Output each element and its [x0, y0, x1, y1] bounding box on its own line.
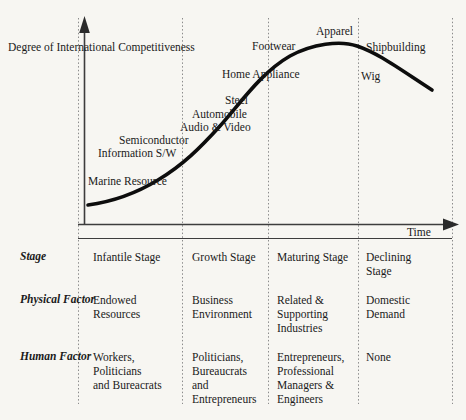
cell-stage-growth: Growth Stage: [192, 250, 256, 264]
curve-label-semiconductor: Semiconductor: [119, 134, 189, 148]
curve-label-information-sw: Information S/W: [98, 147, 176, 161]
curve-label-home-appliance: Home Appliance: [222, 68, 300, 82]
cell-physical-maturing: Related & Supporting Industries: [277, 293, 328, 335]
cell-physical-growth: Business Environment: [192, 293, 252, 321]
x-axis-title: Time: [407, 226, 431, 240]
cell-human-infantile: Workers, Politicians and Bureacrats: [93, 350, 162, 392]
curve-label-shipbuilding: Shipbuilding: [366, 41, 425, 55]
row-label-physical-factor: Physical Factor: [20, 293, 95, 307]
cell-stage-declining: Declining Stage: [366, 250, 411, 278]
cell-human-declining: None: [366, 350, 391, 364]
curve-label-wig: Wig: [361, 70, 380, 84]
x-axis: [78, 219, 459, 231]
y-axis-title: Degree of International Competitiveness: [8, 41, 195, 54]
curve-label-audio-video: Audio & Video: [180, 121, 251, 135]
cell-stage-infantile: Infantile Stage: [93, 250, 160, 264]
curve-label-footwear: Footwear: [252, 40, 295, 54]
cell-human-growth: Politicians, Bureaucrats and Entrepreneu…: [192, 350, 257, 406]
cell-human-maturing: Entrepreneurs, Professional Managers & E…: [277, 350, 344, 406]
cell-stage-maturing: Maturing Stage: [277, 250, 348, 264]
cell-physical-declining: Domestic Demand: [366, 293, 410, 321]
cell-physical-infantile: Endowed Resources: [93, 293, 140, 321]
curve-label-steel: Steel: [225, 94, 248, 108]
figure-canvas: Degree of International Competitiveness …: [0, 0, 466, 420]
row-label-human-factor: Human Factor: [20, 350, 91, 364]
curve-label-marine-resource: Marine Resource: [88, 175, 167, 189]
curve-label-automobile: Automobile: [192, 108, 247, 122]
row-label-stage: Stage: [20, 250, 46, 264]
curve-label-apparel: Apparel: [316, 25, 353, 39]
